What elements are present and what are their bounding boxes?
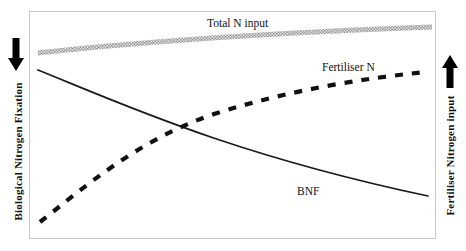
left-axis-label: Biological Nitrogen Fixation: [13, 72, 24, 232]
plot-area-frame: [29, 11, 436, 239]
series-label-bnf: BNF: [297, 186, 319, 198]
right-axis-label: Fertiliser Nitrogen input: [445, 76, 456, 236]
figure-canvas: Biological Nitrogen Fixation Fertiliser …: [0, 0, 466, 251]
series-label-total-n-input: Total N input: [207, 18, 268, 30]
arrow-down-icon: [6, 38, 26, 72]
series-label-fertiliser-n: Fertiliser N: [322, 62, 375, 74]
